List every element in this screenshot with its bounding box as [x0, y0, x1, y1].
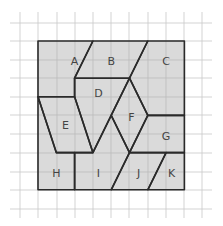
- piece-label-b: B: [107, 55, 115, 68]
- piece-label-c: C: [162, 55, 170, 68]
- piece-label-d: D: [94, 87, 102, 100]
- piece-label-k: K: [168, 167, 176, 180]
- piece-label-g: G: [162, 130, 171, 143]
- piece-label-i: I: [97, 167, 100, 180]
- piece-label-h: H: [52, 167, 60, 180]
- dissection-diagram: ABCDEFGHIJK: [0, 0, 223, 226]
- piece-label-e: E: [62, 119, 69, 132]
- piece-label-a: A: [71, 55, 79, 68]
- piece-label-f: F: [128, 111, 134, 124]
- piece-label-j: J: [136, 167, 140, 180]
